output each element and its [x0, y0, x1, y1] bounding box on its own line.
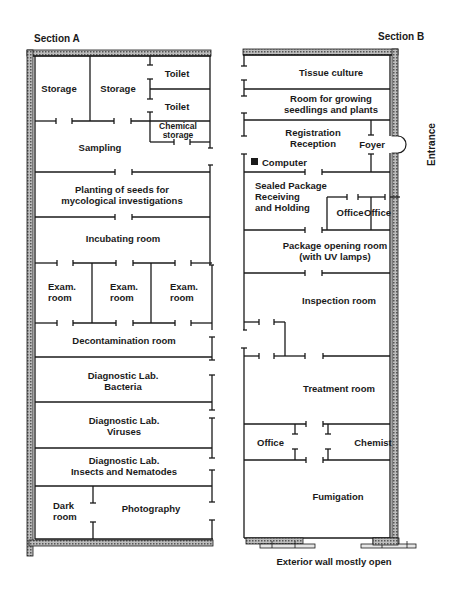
room-diag-bacteria: Diagnostic Lab. Bacteria — [88, 370, 159, 392]
room-chemical-storage: Chemical storage — [159, 122, 197, 140]
section-a-label: Section A — [34, 33, 80, 44]
room-fumigation: Fumigation — [312, 491, 363, 502]
section-a-left-wall — [27, 50, 33, 556]
entrance-label: Entrance — [426, 115, 437, 175]
room-exam-2: Exam. room — [110, 281, 138, 303]
room-diag-insects: Diagnostic Lab. Insects and Nematodes — [71, 455, 177, 477]
room-office-1: Office — [337, 207, 364, 218]
room-chemist: Chemist — [354, 437, 391, 448]
section-a-bottom-wall — [29, 540, 213, 546]
room-exam-1: Exam. room — [48, 281, 76, 303]
exterior-wall-note: Exterior wall mostly open — [276, 556, 391, 567]
room-storage-1: Storage — [41, 83, 76, 94]
room-package-opening: Package opening room (with UV lamps) — [283, 240, 388, 262]
room-registration: Registration Reception — [285, 127, 340, 149]
room-office-2: Office — [364, 207, 395, 218]
section-b-label: Section B — [378, 31, 424, 42]
room-incubating: Incubating room — [86, 233, 160, 244]
room-sampling: Sampling — [79, 142, 122, 153]
room-decontamination: Decontamination room — [72, 335, 175, 346]
room-planting: Planting of seeds for mycological invest… — [61, 184, 182, 206]
room-sealed-package: Sealed Package Receiving and Holding — [255, 180, 327, 213]
room-foyer: Foyer — [359, 139, 397, 150]
room-growing: Room for growing seedlings and plants — [284, 93, 378, 115]
section-a-top-wall — [27, 50, 211, 56]
room-diag-viruses: Diagnostic Lab. Viruses — [89, 415, 160, 437]
room-dark-room: Dark room — [53, 500, 77, 522]
section-b-right-wall-upper — [392, 49, 398, 136]
room-office-3: Office — [257, 437, 284, 448]
room-tissue-culture: Tissue culture — [299, 67, 363, 78]
room-exam-3: Exam. room — [170, 281, 198, 303]
room-inspection: Inspection room — [302, 295, 376, 306]
room-photography: Photography — [122, 503, 181, 514]
computer-icon — [251, 158, 258, 165]
section-b-top-wall — [243, 49, 398, 55]
room-storage-2: Storage — [100, 83, 135, 94]
room-treatment: Treatment room — [303, 383, 375, 394]
computer-label: Computer — [262, 157, 307, 168]
room-toilet-1: Toilet — [165, 68, 190, 79]
room-toilet-2: Toilet — [165, 101, 190, 112]
